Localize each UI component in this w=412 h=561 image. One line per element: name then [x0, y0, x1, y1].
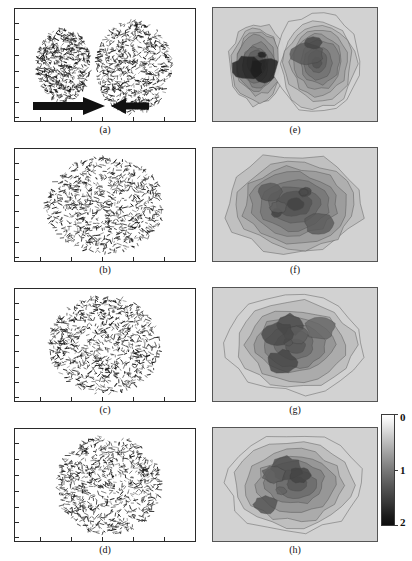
axis-tick-left-3	[15, 491, 19, 492]
axis-tick-left-3	[15, 211, 19, 212]
axis-tick-left-6	[15, 257, 19, 258]
axis-tick-bottom-4	[164, 397, 165, 401]
panel-d-frame	[14, 428, 196, 542]
axis-tick-bottom-3	[133, 257, 134, 261]
axis-tick-bottom-1	[71, 537, 72, 541]
axis-tick-bottom-1	[71, 117, 72, 121]
axis-tick-left-0	[15, 163, 19, 164]
colorbar-tick-0	[395, 414, 398, 415]
axis-tick-left-2	[15, 55, 19, 56]
panel-b-caption: (b)	[14, 264, 196, 276]
axis-tick-left-5	[15, 522, 19, 523]
axis-tick-left-2	[15, 475, 19, 476]
axis-tick-left-4	[15, 507, 19, 508]
panel-c-caption: (c)	[14, 404, 196, 416]
axis-tick-left-6	[15, 537, 19, 538]
axis-tick-left-6	[15, 117, 19, 118]
axis-tick-left-6	[15, 397, 19, 398]
panel-c-segments	[15, 289, 195, 401]
panel-d	[14, 428, 196, 542]
panel-b-frame	[14, 148, 196, 262]
axis-tick-bottom-2	[102, 117, 103, 121]
colorbar-label-min: 0	[400, 412, 406, 423]
axis-tick-left-4	[15, 367, 19, 368]
panel-f-contours	[213, 148, 377, 261]
axis-tick-bottom-1	[71, 397, 72, 401]
panel-b	[14, 148, 196, 262]
panel-g-contours	[213, 288, 377, 401]
colorbar-label-max: 2	[400, 517, 406, 528]
panel-d-segments	[15, 429, 195, 541]
colorbar-tick-2	[395, 525, 398, 526]
colorbar-gradient	[381, 414, 395, 526]
axis-tick-left-0	[15, 23, 19, 24]
axis-tick-left-2	[15, 195, 19, 196]
colorbar-tick-1	[395, 470, 398, 471]
panel-c-frame	[14, 288, 196, 402]
panel-h-frame	[212, 427, 378, 542]
axis-tick-left-1	[15, 319, 19, 320]
axis-tick-left-4	[15, 227, 19, 228]
panel-f	[212, 147, 378, 262]
panel-h	[212, 427, 378, 542]
axis-tick-left-5	[15, 242, 19, 243]
axis-tick-bottom-3	[133, 117, 134, 121]
panel-c	[14, 288, 196, 402]
axis-tick-left-5	[15, 102, 19, 103]
panel-h-caption: (h)	[212, 544, 378, 556]
axis-tick-left-1	[15, 179, 19, 180]
axis-tick-bottom-0	[40, 537, 41, 541]
axis-tick-bottom-4	[164, 537, 165, 541]
right-arrow-icon	[33, 97, 105, 115]
panel-g-frame	[212, 287, 378, 402]
axis-tick-left-5	[15, 382, 19, 383]
axis-tick-bottom-0	[40, 397, 41, 401]
axis-tick-left-1	[15, 39, 19, 40]
axis-tick-bottom-4	[164, 117, 165, 121]
panel-e-contours	[213, 8, 377, 121]
panel-a	[14, 8, 196, 122]
axis-tick-left-3	[15, 71, 19, 72]
panel-d-caption: (d)	[14, 544, 196, 556]
left-arrow-icon	[111, 98, 149, 114]
axis-tick-bottom-2	[102, 257, 103, 261]
colorbar: 0 1 2	[381, 414, 411, 526]
panel-f-frame	[212, 147, 378, 262]
axis-tick-left-1	[15, 459, 19, 460]
panel-e-frame	[212, 7, 378, 122]
axis-tick-bottom-3	[133, 397, 134, 401]
panel-a-frame	[14, 8, 196, 122]
axis-tick-left-0	[15, 303, 19, 304]
axis-tick-left-3	[15, 351, 19, 352]
axis-tick-bottom-1	[71, 257, 72, 261]
colorbar-label-mid: 1	[400, 465, 406, 476]
axis-tick-left-4	[15, 87, 19, 88]
axis-tick-left-2	[15, 335, 19, 336]
axis-tick-bottom-2	[102, 537, 103, 541]
axis-tick-bottom-4	[164, 257, 165, 261]
panel-g	[212, 287, 378, 402]
panel-b-segments	[15, 149, 195, 261]
panel-f-caption: (f)	[212, 264, 378, 276]
axis-tick-bottom-2	[102, 397, 103, 401]
axis-tick-left-0	[15, 443, 19, 444]
axis-tick-bottom-0	[40, 117, 41, 121]
axis-tick-bottom-3	[133, 537, 134, 541]
panel-e	[212, 7, 378, 122]
scientific-figure: (a) (b) (c) (d) (e) (f) (g	[0, 0, 412, 561]
panel-a-caption: (a)	[14, 124, 196, 136]
panel-h-contours	[213, 428, 377, 541]
panel-g-caption: (g)	[212, 404, 378, 416]
panel-e-caption: (e)	[212, 124, 378, 136]
axis-tick-bottom-0	[40, 257, 41, 261]
